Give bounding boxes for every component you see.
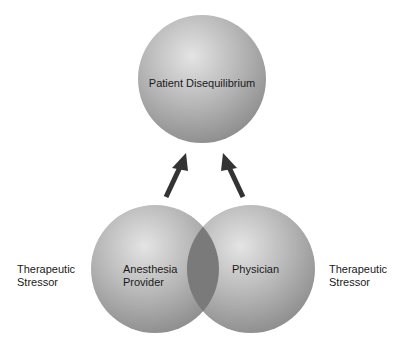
top-node-label: Patient Disequilibrium	[142, 77, 262, 90]
left-node-label-line2: Provider	[123, 276, 177, 289]
left-stressor-label: Therapeutic Stressor	[17, 263, 75, 289]
left-stressor-line1: Therapeutic	[17, 263, 75, 276]
diagram-canvas	[0, 0, 405, 347]
arrow-right-icon	[221, 153, 243, 197]
right-stressor-line2: Stressor	[329, 276, 387, 289]
right-stressor-line1: Therapeutic	[329, 263, 387, 276]
left-stressor-line2: Stressor	[17, 276, 75, 289]
right-node-label: Physician	[232, 263, 279, 276]
right-stressor-label: Therapeutic Stressor	[329, 263, 387, 289]
arrow-left-icon	[166, 153, 188, 197]
left-node-label: Anesthesia Provider	[123, 263, 177, 289]
left-node-label-line1: Anesthesia	[123, 263, 177, 276]
